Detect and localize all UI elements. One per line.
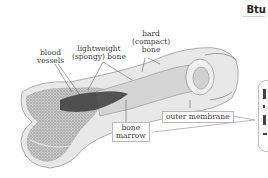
label-line: marrow xyxy=(116,132,146,140)
label-blood-vessels: blood vessels xyxy=(37,49,64,65)
bone-illustration xyxy=(0,0,268,178)
label-outer-membrane: outer membrane xyxy=(162,111,234,123)
text-fragment xyxy=(263,105,265,108)
label-spongy-bone: lightweight (spongy) bone xyxy=(72,45,126,61)
text-fragment xyxy=(263,89,266,99)
label-line: vessels xyxy=(37,57,64,65)
text-fragment xyxy=(263,133,267,135)
label-line: bone xyxy=(132,46,170,54)
text-fragment xyxy=(263,115,266,125)
label-bone-marrow: bone marrow xyxy=(112,122,150,142)
label-compact-bone: hard (compact) bone xyxy=(132,30,170,54)
label-line: (spongy) bone xyxy=(72,53,126,61)
side-info-box xyxy=(258,80,268,152)
